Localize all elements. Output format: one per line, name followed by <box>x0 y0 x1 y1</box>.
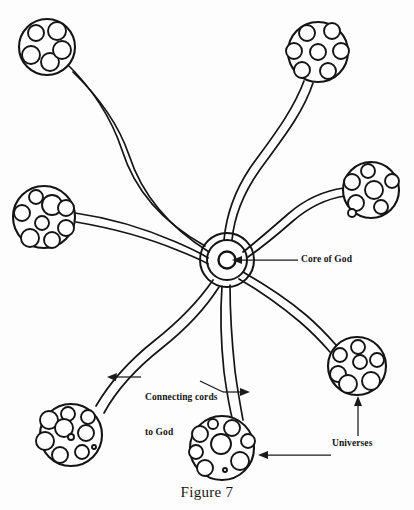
cord-to-right-upper[interactable] <box>243 188 345 257</box>
figure-container: Core of God Connecting cords to God Univ… <box>0 0 414 510</box>
label-universes: Universes <box>332 438 372 450</box>
leader-core-of-god <box>232 256 298 264</box>
figure-caption: Figure 7 <box>0 484 414 501</box>
arrow-head-cords-right <box>240 388 250 396</box>
universe-top-left[interactable] <box>19 19 75 75</box>
label-connecting-cords-line1: Connecting cords <box>145 392 218 404</box>
cord-to-right-lower[interactable] <box>239 272 336 352</box>
leader-universes-left <box>258 451 331 459</box>
universe-top-right[interactable] <box>286 22 349 82</box>
leader-cords-left <box>107 373 141 381</box>
leader-universes-up <box>354 396 362 436</box>
universe-bottom-left[interactable] <box>36 404 102 466</box>
arrow-head-universes-up <box>354 396 362 406</box>
universe-right-upper[interactable] <box>343 162 399 218</box>
cord-to-left[interactable] <box>75 213 208 264</box>
universe-left[interactable] <box>13 186 75 248</box>
label-core-of-god: Core of God <box>301 254 352 266</box>
label-connecting-cords: Connecting cords to God <box>145 369 218 461</box>
arrow-head-universes-left <box>258 451 268 459</box>
cord-to-bottom-center[interactable] <box>221 285 243 422</box>
universe-right-lower[interactable] <box>328 337 386 395</box>
label-connecting-cords-line2: to God <box>145 427 218 439</box>
arrow-head-cords-left <box>107 373 117 381</box>
